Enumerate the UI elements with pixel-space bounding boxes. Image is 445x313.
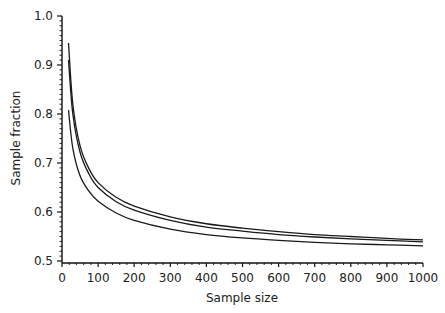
x-tick-label: 500 (231, 271, 254, 285)
y-tick-label: 0.5 (34, 254, 53, 268)
x-tick-label: 200 (123, 271, 146, 285)
x-tick-label: 600 (267, 271, 290, 285)
x-tick-label: 800 (339, 271, 362, 285)
x-tick-label: 900 (375, 271, 398, 285)
x-tick-label: 100 (87, 271, 110, 285)
y-tick-label: 0.9 (34, 58, 53, 72)
y-axis-title: Sample fraction (9, 91, 23, 186)
series-line-2 (68, 60, 423, 242)
series-line-1 (68, 43, 423, 240)
x-axis-title: Sample size (206, 291, 278, 305)
y-tick-label: 0.6 (34, 205, 53, 219)
series-line-3 (68, 110, 423, 246)
axis-ticks (57, 16, 423, 267)
x-tick-label: 0 (58, 271, 66, 285)
y-tick-label: 0.7 (34, 156, 53, 170)
x-tick-label: 700 (303, 271, 326, 285)
x-tick-label: 1000 (408, 271, 439, 285)
y-tick-label: 1.0 (34, 9, 53, 23)
y-tick-label: 0.8 (34, 107, 53, 121)
x-tick-label: 400 (195, 271, 218, 285)
axes (62, 16, 423, 263)
data-series (68, 43, 423, 246)
tick-labels: 0.50.60.70.80.91.00100200300400500600700… (34, 9, 438, 285)
x-tick-label: 300 (159, 271, 182, 285)
line-chart: 0.50.60.70.80.91.00100200300400500600700… (0, 0, 445, 313)
